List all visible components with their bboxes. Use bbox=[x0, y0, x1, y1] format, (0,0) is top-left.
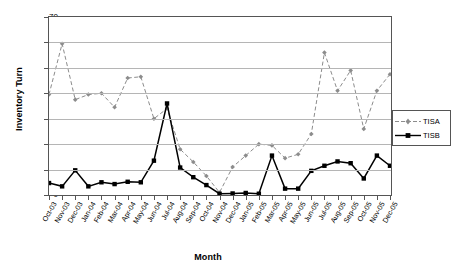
data-point-marker bbox=[361, 127, 366, 132]
gridline bbox=[49, 93, 391, 94]
data-point-marker bbox=[165, 101, 169, 105]
data-point-marker bbox=[244, 191, 248, 195]
data-point-marker bbox=[322, 50, 327, 55]
x-axis-title: Month bbox=[148, 252, 268, 262]
legend-swatch-tisb bbox=[395, 131, 421, 140]
data-point-marker bbox=[348, 161, 352, 165]
data-point-marker bbox=[112, 182, 116, 186]
data-point-marker bbox=[296, 152, 301, 157]
data-point-marker bbox=[86, 184, 90, 188]
data-point-marker bbox=[257, 192, 261, 195]
data-point-marker bbox=[49, 181, 51, 185]
data-point-marker bbox=[388, 164, 391, 168]
plot-area bbox=[48, 16, 392, 196]
gridline bbox=[49, 119, 391, 120]
legend-label-tisb: TISB bbox=[423, 131, 440, 140]
data-point-marker bbox=[112, 105, 117, 110]
x-axis-tick-mark bbox=[338, 196, 339, 200]
data-point-marker bbox=[230, 191, 234, 195]
data-point-marker bbox=[60, 184, 64, 188]
inventory-turn-line-chart: Inventory Turn Month 010203040506070 Oct… bbox=[0, 0, 454, 274]
series-layer bbox=[49, 17, 391, 195]
x-axis-tick-mark bbox=[351, 196, 352, 200]
x-axis-tick-mark bbox=[154, 196, 155, 200]
data-point-marker bbox=[217, 192, 221, 195]
legend-swatch-tisa bbox=[395, 117, 421, 126]
data-point-marker bbox=[375, 153, 379, 157]
x-axis-tick-mark bbox=[128, 196, 129, 200]
data-point-marker bbox=[283, 186, 287, 190]
data-point-marker bbox=[73, 97, 78, 102]
data-point-marker bbox=[309, 132, 314, 137]
x-axis-tick-mark bbox=[233, 196, 234, 200]
x-axis-tick-mark bbox=[220, 196, 221, 200]
gridline bbox=[49, 144, 391, 145]
data-point-marker bbox=[335, 159, 339, 163]
data-point-marker bbox=[362, 176, 366, 180]
x-axis-tick-mark bbox=[141, 196, 142, 200]
data-point-marker bbox=[139, 74, 144, 79]
x-axis-tick-mark bbox=[377, 196, 378, 200]
x-axis-tick-mark bbox=[115, 196, 116, 200]
data-point-marker bbox=[139, 180, 143, 184]
data-point-marker bbox=[204, 183, 208, 187]
data-point-marker bbox=[296, 186, 300, 190]
series-tisb bbox=[49, 101, 391, 195]
chart-legend: TISA TISB bbox=[392, 110, 451, 146]
y-axis-title: Inventory Turn bbox=[14, 39, 24, 159]
data-point-marker bbox=[99, 180, 103, 184]
data-point-marker bbox=[125, 76, 130, 81]
gridline bbox=[49, 170, 391, 171]
gridline bbox=[49, 68, 391, 69]
data-point-marker bbox=[152, 158, 156, 162]
legend-label-tisa: TISA bbox=[423, 117, 440, 126]
data-point-marker bbox=[191, 175, 195, 179]
legend-item-tisa: TISA bbox=[395, 114, 448, 128]
x-axis-tick-mark bbox=[259, 196, 260, 200]
data-point-marker bbox=[125, 180, 129, 184]
legend-item-tisb: TISB bbox=[395, 128, 448, 142]
x-axis-tick-mark bbox=[364, 196, 365, 200]
gridline bbox=[49, 42, 391, 43]
data-point-marker bbox=[322, 164, 326, 168]
data-point-marker bbox=[270, 153, 274, 157]
x-axis-tick-mark bbox=[246, 196, 247, 200]
